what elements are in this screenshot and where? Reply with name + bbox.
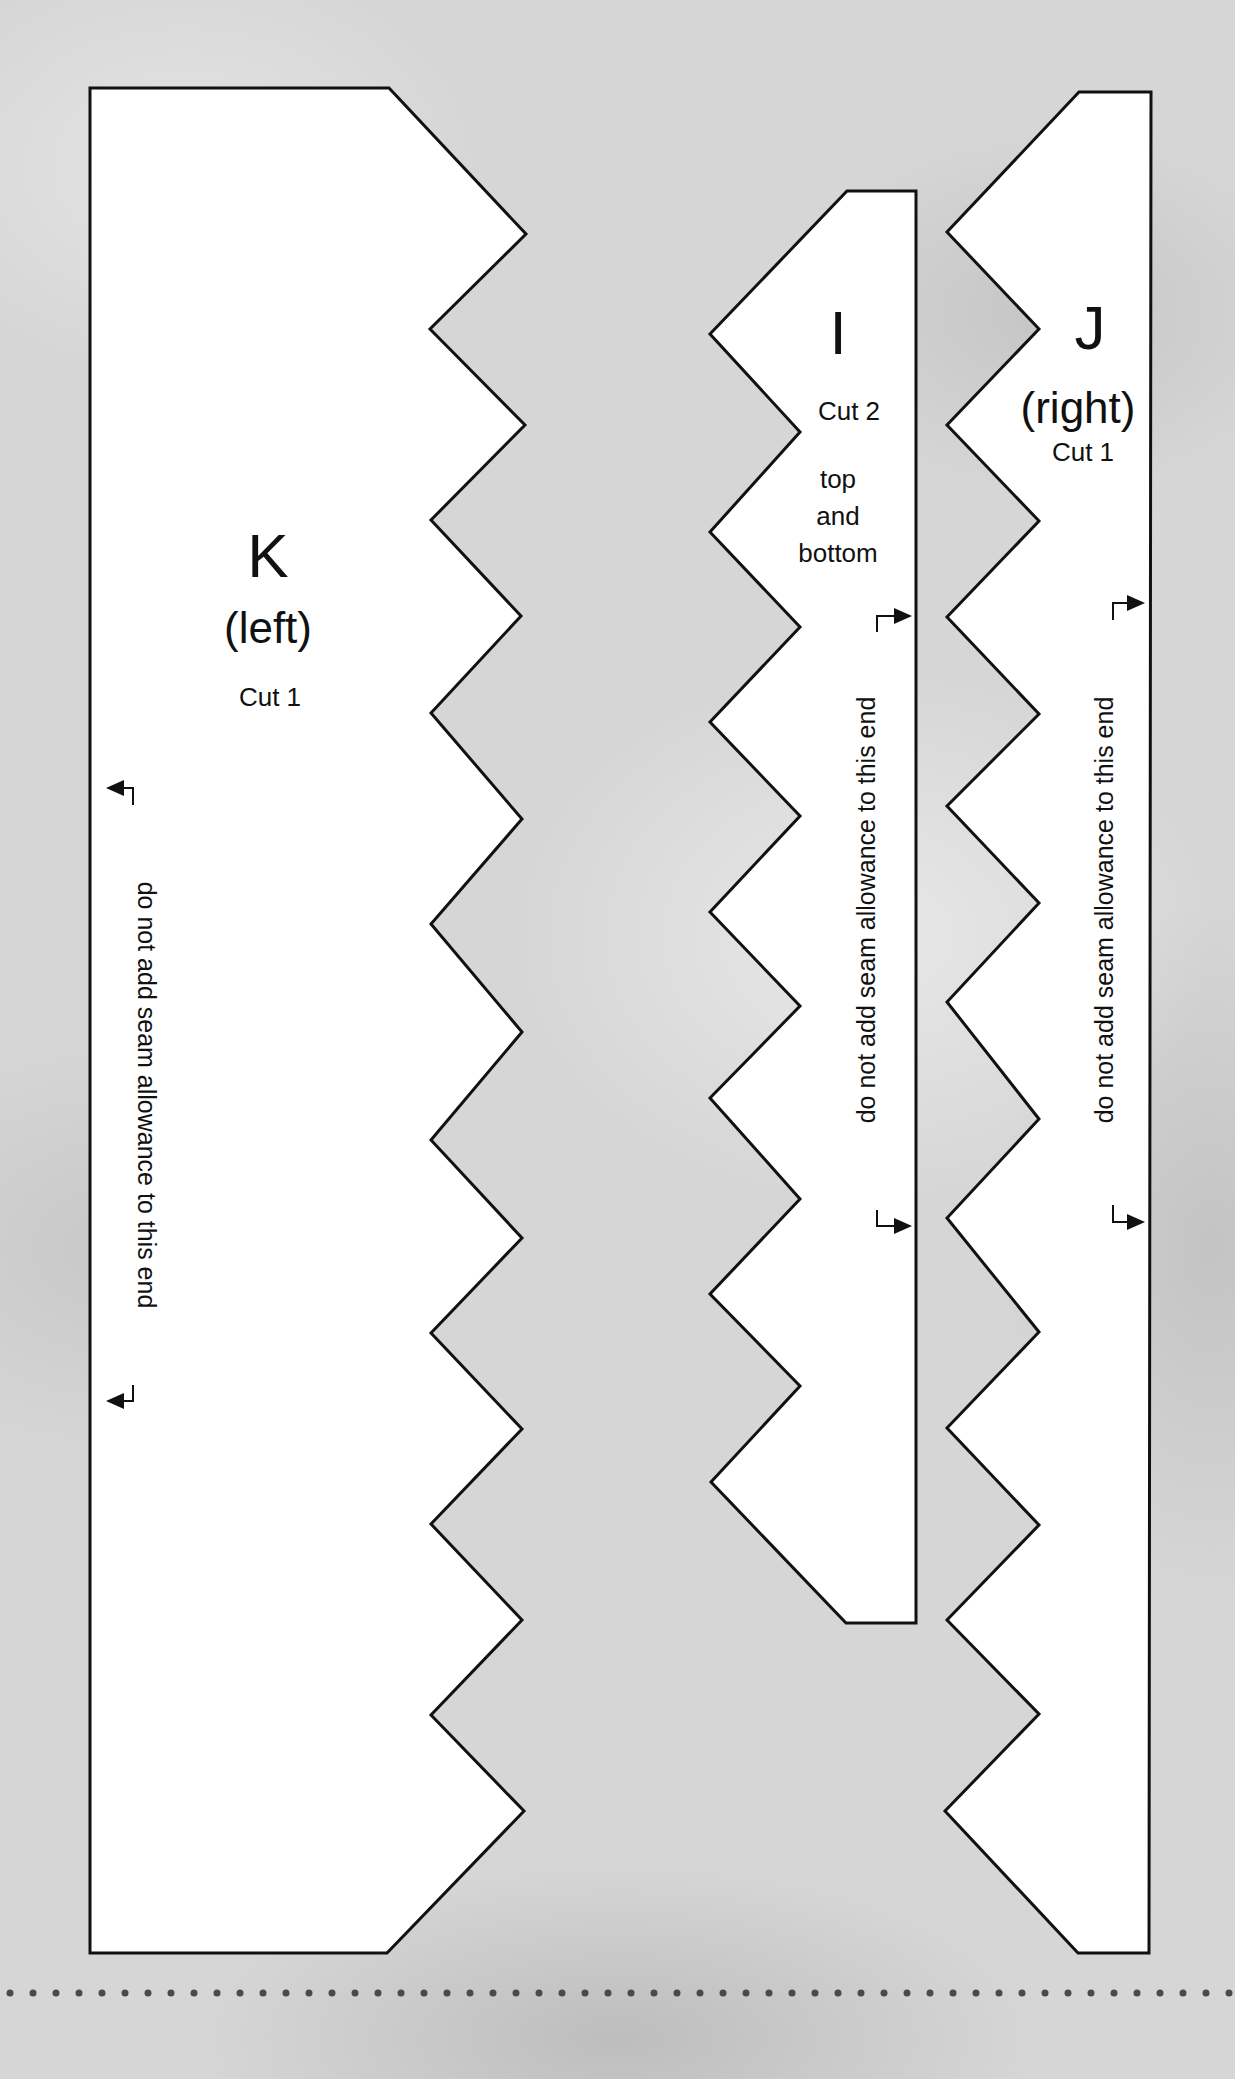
piece-i-position-line: top (798, 461, 878, 498)
piece-k-cut: Cut 1 (239, 684, 301, 710)
piece-k-letter: K (247, 525, 288, 587)
piece-i-position-line: and (798, 498, 878, 535)
piece-i-seam-note: do not add seam allowance to this end (854, 697, 879, 1124)
piece-j-side: (right) (1021, 386, 1136, 430)
piece-j-seam-note: do not add seam allowance to this end (1092, 697, 1117, 1124)
piece-i-outline (710, 191, 916, 1623)
piece-k-seam-note: do not add seam allowance to this end (134, 882, 159, 1309)
piece-i-position: top and bottom (798, 461, 878, 572)
piece-i-position-line: bottom (798, 535, 878, 572)
piece-i-letter: I (829, 302, 846, 364)
piece-j-letter: J (1075, 297, 1106, 359)
piece-k-side: (left) (224, 606, 312, 650)
dotted-divider (7, 1990, 1233, 1997)
piece-j-cut: Cut 1 (1052, 439, 1114, 465)
piece-j-outline (945, 92, 1151, 1953)
piece-i-cut: Cut 2 (818, 398, 880, 424)
pattern-pieces (0, 0, 1235, 2079)
